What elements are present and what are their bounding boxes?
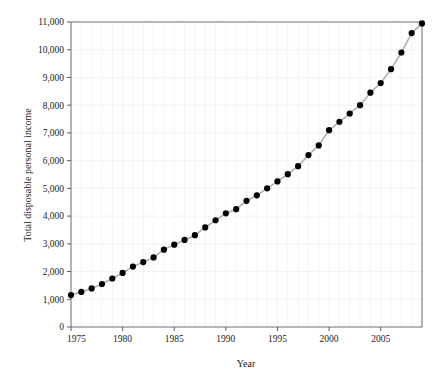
y-tick-label: 6,000 — [43, 156, 65, 166]
data-point — [336, 119, 342, 125]
y-tick-label: 9,000 — [43, 73, 65, 83]
y-tick-label: 7,000 — [43, 128, 65, 138]
data-point — [89, 285, 95, 291]
y-tick-label: 1,000 — [43, 295, 65, 305]
data-point — [192, 232, 198, 238]
data-point — [388, 66, 394, 72]
x-tick-label: 2005 — [371, 334, 390, 344]
data-point — [305, 152, 311, 158]
data-point — [347, 110, 353, 116]
y-tick-label: 8,000 — [43, 101, 65, 111]
x-tick-label: 1980 — [113, 334, 132, 344]
x-tick-label: 1975 — [67, 334, 86, 344]
data-point — [78, 289, 84, 295]
x-axis-ticks — [71, 327, 381, 331]
x-tick-label: 1985 — [165, 334, 184, 344]
y-tick-label: 5,000 — [43, 184, 65, 194]
y-tick-label: 10,000 — [38, 45, 64, 55]
data-point — [109, 275, 115, 281]
data-point — [398, 49, 404, 55]
y-tick-label: 11,000 — [38, 17, 64, 27]
y-tick-label: 3,000 — [43, 239, 65, 249]
line-chart: 01,0002,0003,0004,0005,0006,0007,0008,00… — [0, 0, 445, 382]
y-tick-label: 4,000 — [43, 211, 65, 221]
data-point — [212, 217, 218, 223]
data-point — [357, 102, 363, 108]
data-point — [202, 224, 208, 230]
data-point — [171, 242, 177, 248]
x-axis-tick-labels: 1975198019851990199520002005 — [67, 334, 390, 344]
data-point — [150, 254, 156, 260]
gridlines — [71, 22, 422, 327]
y-axis-title: Total disposable personal income — [22, 108, 33, 242]
data-point — [285, 171, 291, 177]
data-point — [223, 210, 229, 216]
data-point — [130, 263, 136, 269]
y-axis-ticks — [67, 22, 71, 327]
data-point — [254, 192, 260, 198]
data-point — [409, 30, 415, 36]
x-tick-label: 1995 — [268, 334, 287, 344]
x-axis-title: Year — [237, 358, 256, 369]
data-point — [140, 259, 146, 265]
y-tick-label: 0 — [59, 322, 64, 332]
data-point — [326, 127, 332, 133]
data-point — [378, 80, 384, 86]
data-point — [120, 270, 126, 276]
data-point — [233, 206, 239, 212]
x-tick-label: 1990 — [216, 334, 235, 344]
y-axis-tick-labels: 01,0002,0003,0004,0005,0006,0007,0008,00… — [38, 17, 64, 332]
data-point — [181, 237, 187, 243]
y-tick-label: 2,000 — [43, 267, 65, 277]
data-point — [295, 163, 301, 169]
data-point — [243, 198, 249, 204]
data-point — [99, 281, 105, 287]
chart-figure: 01,0002,0003,0004,0005,0006,0007,0008,00… — [0, 0, 445, 382]
data-point — [68, 292, 74, 298]
data-point — [419, 20, 425, 26]
data-point — [316, 142, 322, 148]
x-tick-label: 2000 — [320, 334, 339, 344]
data-point — [367, 90, 373, 96]
data-point — [274, 178, 280, 184]
data-point — [264, 185, 270, 191]
data-point — [161, 247, 167, 253]
